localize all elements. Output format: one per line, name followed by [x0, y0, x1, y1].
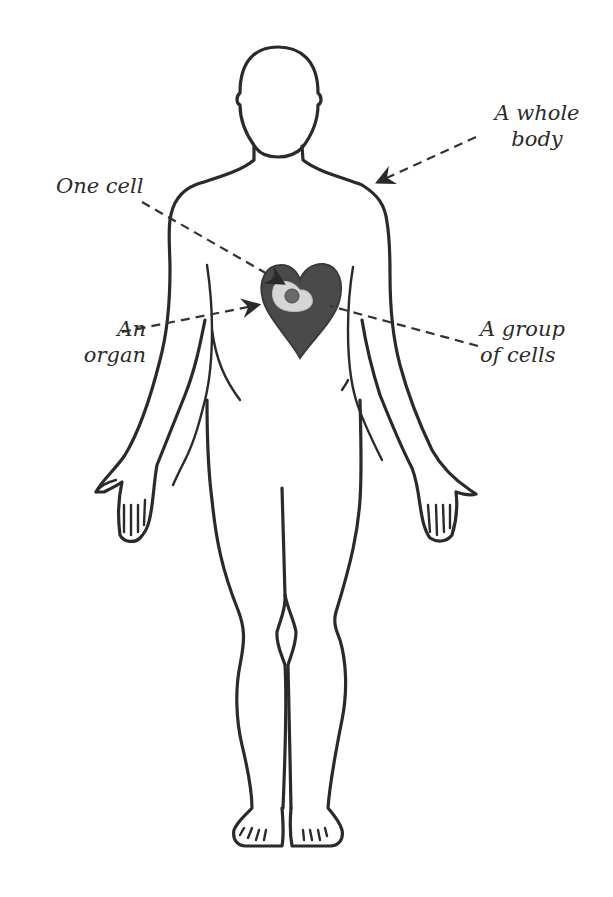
label-group-of-cells: A group of cells [480, 316, 590, 368]
head-outline [237, 47, 321, 157]
label-one-cell-line1: One cell [56, 173, 146, 199]
label-whole-body-line1: A whole [482, 100, 592, 126]
arrow-one-cell [142, 202, 283, 283]
line-group-of-cells [330, 306, 478, 346]
body-outline [96, 146, 476, 846]
label-group-line1: A group [480, 316, 590, 342]
label-group-line2: of cells [480, 342, 590, 368]
label-organ: An organ [66, 316, 146, 368]
label-organ-line1: An [66, 316, 146, 342]
single-cell [285, 289, 299, 303]
label-one-cell: One cell [56, 173, 146, 199]
label-whole-body: A whole body [482, 100, 592, 152]
label-organ-line2: organ [66, 342, 146, 368]
arrow-whole-body [378, 137, 476, 182]
diagram-canvas: A whole body One cell An organ A group o… [0, 0, 613, 897]
label-whole-body-line2: body [482, 126, 592, 152]
